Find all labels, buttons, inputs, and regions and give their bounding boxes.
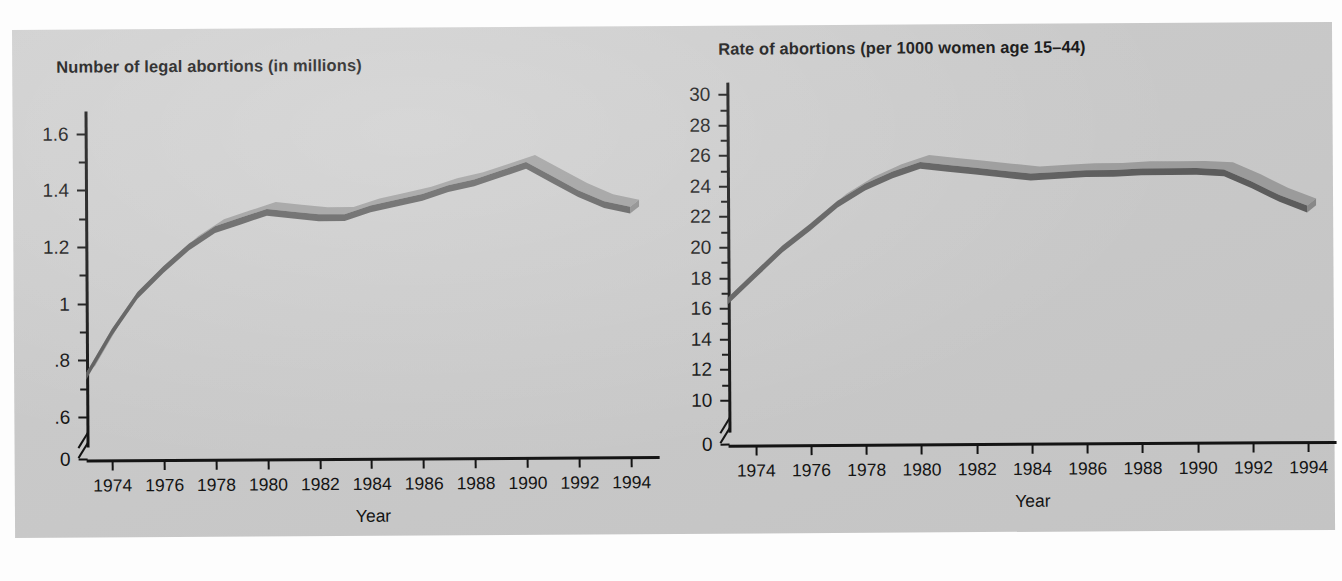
y-tick-label: 26 [690, 145, 711, 167]
y-tick-label: .6 [54, 406, 70, 428]
x-axis-title: Year [1015, 491, 1050, 512]
chart-abortion-rate: Rate of abortions (per 1000 women age 15… [660, 22, 1335, 534]
data-series-ribbon [84, 108, 671, 472]
y-tick-label: 0 [60, 449, 71, 471]
figure-panel: Number of legal abortions (in millions) … [12, 22, 1335, 538]
x-tick-label: 1974 [737, 460, 776, 481]
y-tick-label: 16 [691, 298, 712, 320]
y-tick-label: 1 [59, 293, 70, 315]
y-tick-label: 20 [690, 237, 711, 259]
plot-area-left: 1.61.41.21.8.601974197619781980198219841… [84, 108, 631, 466]
x-tick-label: 1994 [1289, 457, 1328, 478]
y-tick-label: 1.4 [42, 180, 69, 202]
x-tick-label: 1988 [1123, 458, 1162, 479]
x-tick-label: 1994 [612, 472, 651, 493]
chart-title-right: Rate of abortions (per 1000 women age 15… [718, 37, 1086, 58]
x-tick-label: 1974 [93, 475, 132, 496]
x-tick-label: 1984 [1013, 459, 1052, 480]
x-tick-label: 1982 [958, 459, 997, 480]
x-tick-label: 1976 [792, 460, 831, 481]
x-tick-label: 1992 [560, 472, 599, 493]
y-tick-label: 0 [702, 434, 713, 456]
chart-legal-abortions-count: Number of legal abortions (in millions) … [12, 26, 675, 538]
y-tick-label: .8 [54, 350, 70, 372]
x-tick-label: 1986 [1068, 458, 1107, 479]
y-tick-label: 22 [690, 206, 711, 228]
series-front-face [85, 161, 631, 379]
y-tick-label: 24 [690, 176, 711, 198]
x-tick-label: 1980 [249, 474, 288, 495]
y-tick-label: 1.2 [43, 237, 70, 259]
x-tick-label: 1992 [1234, 457, 1273, 478]
figure-page: Number of legal abortions (in millions) … [0, 0, 1342, 581]
plot-area-right: 3028262422201816141210019741976197819801… [726, 79, 1308, 463]
y-tick-label: 12 [691, 359, 712, 381]
x-tick-label: 1990 [1179, 458, 1218, 479]
x-tick-label: 1984 [353, 474, 392, 495]
y-tick-label: 28 [689, 115, 710, 137]
caption-fragment [132, 560, 392, 578]
x-axis-title: Year [356, 506, 391, 527]
x-tick-label: 1980 [903, 459, 942, 480]
x-tick-label: 1976 [145, 475, 184, 496]
y-tick-label: 30 [689, 84, 710, 106]
chart-title-left: Number of legal abortions (in millions) [56, 56, 362, 77]
x-tick-label: 1982 [301, 474, 340, 495]
x-tick-label: 1978 [197, 475, 236, 496]
y-tick-label: 14 [691, 328, 712, 350]
y-tick-label: 18 [690, 267, 711, 289]
series-front-face [727, 160, 1308, 305]
x-tick-label: 1990 [508, 473, 547, 494]
data-series-ribbon [726, 79, 1342, 453]
x-tick-label: 1988 [457, 473, 496, 494]
y-tick-label: 1.6 [42, 123, 69, 145]
x-tick-label: 1986 [405, 473, 444, 494]
x-tick-label: 1978 [847, 460, 886, 481]
y-tick-label: 10 [691, 389, 712, 411]
